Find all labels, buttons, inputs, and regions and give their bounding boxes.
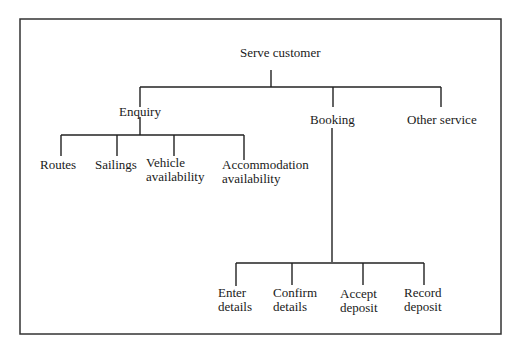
node-vehicle-availability: Vehicle availability xyxy=(146,156,204,184)
node-serve-customer: Serve customer xyxy=(240,46,321,60)
accommodation-line-2: availability xyxy=(222,172,309,186)
confirm-line-2: details xyxy=(273,300,317,314)
vehicle-line-1: Vehicle xyxy=(146,156,204,170)
node-enter-details: Enter details xyxy=(218,286,252,314)
record-line-2: deposit xyxy=(404,300,442,314)
node-booking: Booking xyxy=(310,113,355,127)
enter-line-2: details xyxy=(218,300,252,314)
node-routes: Routes xyxy=(40,158,76,172)
confirm-line-1: Confirm xyxy=(273,286,317,300)
node-record-deposit: Record deposit xyxy=(404,286,442,314)
node-confirm-details: Confirm details xyxy=(273,286,317,314)
record-line-1: Record xyxy=(404,286,442,300)
node-other-service: Other service xyxy=(407,113,477,127)
accommodation-line-1: Accommodation xyxy=(222,158,309,172)
node-sailings: Sailings xyxy=(95,158,137,172)
node-accept-deposit: Accept deposit xyxy=(340,287,378,315)
node-enquiry: Enquiry xyxy=(119,105,161,119)
accept-line-1: Accept xyxy=(340,287,378,301)
enter-line-1: Enter xyxy=(218,286,252,300)
accept-line-2: deposit xyxy=(340,301,378,315)
node-accommodation-availability: Accommodation availability xyxy=(222,158,309,186)
vehicle-line-2: availability xyxy=(146,170,204,184)
